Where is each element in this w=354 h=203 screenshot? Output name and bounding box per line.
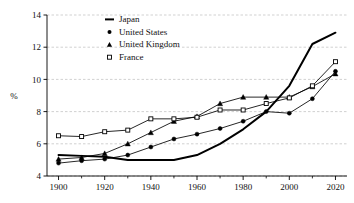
y-tick-label-14: 14 bbox=[32, 10, 42, 20]
y-tick-label-4: 4 bbox=[37, 171, 42, 181]
series-line-3 bbox=[59, 62, 336, 137]
marker-square-3-5 bbox=[172, 117, 176, 121]
x-tick-label-1940: 1940 bbox=[142, 182, 161, 192]
x-tick-label-1920: 1920 bbox=[96, 182, 115, 192]
marker-square-3-6 bbox=[195, 115, 199, 119]
marker-circle-1-9 bbox=[264, 110, 268, 114]
series-line-0 bbox=[59, 33, 336, 160]
y-tick-label-8: 8 bbox=[37, 107, 42, 117]
marker-square-3-1 bbox=[80, 135, 84, 139]
series-japan bbox=[59, 33, 336, 160]
marker-square-3-0 bbox=[57, 134, 61, 138]
legend-label-united-states: United States bbox=[119, 27, 168, 37]
x-tick-label-2000: 2000 bbox=[280, 182, 299, 192]
line-chart: 4681012141900192019401960198020002020%Ja… bbox=[0, 0, 354, 203]
legend: JapanUnited StatesUnited KingdomFrance bbox=[105, 14, 180, 62]
x-tick-label-1900: 1900 bbox=[50, 182, 69, 192]
marker-square-3-4 bbox=[149, 117, 153, 121]
marker-circle-1-10 bbox=[287, 111, 291, 115]
legend-marker-circle bbox=[108, 30, 112, 34]
marker-circle-1-8 bbox=[241, 119, 245, 123]
x-tick-label-1960: 1960 bbox=[188, 182, 207, 192]
marker-circle-1-6 bbox=[195, 132, 199, 136]
marker-triangle-2-2 bbox=[102, 151, 107, 156]
y-tick-label-6: 6 bbox=[37, 139, 42, 149]
legend-label-japan: Japan bbox=[119, 14, 140, 24]
x-tick-label-1980: 1980 bbox=[234, 182, 253, 192]
legend-marker-triangle bbox=[107, 42, 112, 47]
marker-circle-1-2 bbox=[103, 157, 107, 161]
marker-square-3-8 bbox=[241, 108, 245, 112]
y-tick-label-10: 10 bbox=[32, 75, 42, 85]
y-tick-label-12: 12 bbox=[32, 42, 41, 52]
marker-square-3-10 bbox=[287, 96, 291, 100]
marker-square-3-12 bbox=[333, 60, 337, 64]
legend-marker-square bbox=[108, 55, 112, 59]
series-france bbox=[57, 60, 338, 139]
chart-container: 4681012141900192019401960198020002020%Ja… bbox=[0, 0, 354, 203]
marker-square-3-11 bbox=[310, 84, 314, 88]
marker-circle-1-11 bbox=[310, 97, 314, 101]
marker-square-3-2 bbox=[103, 130, 107, 134]
legend-label-france: France bbox=[119, 52, 144, 62]
marker-circle-1-3 bbox=[126, 153, 130, 157]
marker-circle-1-7 bbox=[218, 127, 222, 131]
marker-triangle-2-4 bbox=[148, 130, 153, 135]
marker-circle-1-5 bbox=[172, 137, 176, 141]
marker-square-3-3 bbox=[126, 128, 130, 132]
marker-circle-1-0 bbox=[57, 161, 61, 165]
y-axis-label: % bbox=[10, 91, 18, 101]
marker-square-3-9 bbox=[264, 102, 268, 106]
marker-square-3-7 bbox=[218, 108, 222, 112]
x-tick-label-2020: 2020 bbox=[326, 182, 345, 192]
legend-label-united-kingdom: United Kingdom bbox=[119, 39, 180, 49]
marker-circle-1-4 bbox=[149, 145, 153, 149]
